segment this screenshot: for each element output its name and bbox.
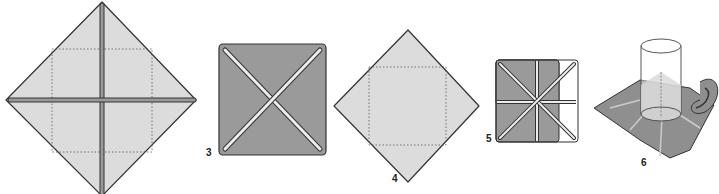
step-5-label: 5 [486, 133, 492, 144]
step-4-label: 4 [392, 173, 398, 184]
step-3-label: 3 [206, 147, 212, 158]
step-3-square: 3 [206, 44, 326, 158]
step-5-square: 5 [486, 60, 578, 144]
step-1-diamond [6, 2, 196, 194]
folding-diagram: 3 4 5 6 [0, 0, 719, 194]
step-6-filter: 6 [594, 39, 718, 168]
step-6-label: 6 [641, 157, 647, 168]
step-4-diamond: 4 [334, 30, 479, 184]
